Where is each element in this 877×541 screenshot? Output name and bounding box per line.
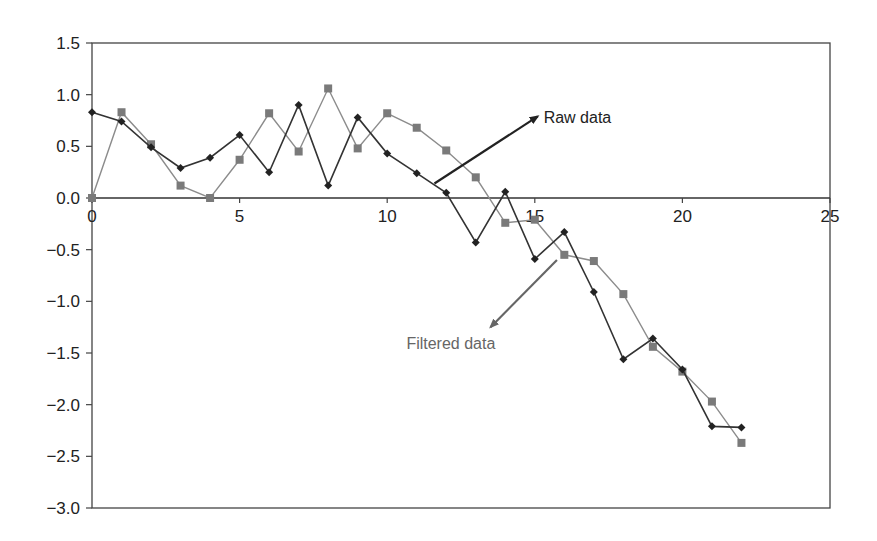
square-marker — [737, 439, 745, 447]
y-tick-label: −2.0 — [46, 396, 80, 415]
annotation-label-filtered-data: Filtered data — [406, 335, 495, 352]
square-marker — [118, 108, 126, 116]
diamond-marker — [590, 288, 598, 296]
square-marker — [324, 84, 332, 92]
annotation-arrow — [491, 260, 557, 327]
diamond-marker — [737, 423, 745, 431]
y-tick-label: 1.5 — [56, 34, 80, 53]
square-marker — [560, 251, 568, 259]
square-marker — [472, 173, 480, 181]
line-chart: 1.51.00.50.0−0.5−1.0−1.5−2.0−2.5−3.0 051… — [0, 0, 877, 541]
x-tick-label: 20 — [673, 207, 692, 226]
y-tick-label: 0.0 — [56, 189, 80, 208]
x-tick-label: 0 — [87, 207, 96, 226]
square-marker — [265, 109, 273, 117]
square-marker — [590, 257, 598, 265]
series-line — [92, 89, 741, 443]
square-marker — [413, 124, 421, 132]
y-tick-label: −3.0 — [46, 499, 80, 518]
series-group — [88, 84, 745, 446]
square-marker — [236, 156, 244, 164]
y-tick-label: −0.5 — [46, 241, 80, 260]
y-tick-label: 0.5 — [56, 137, 80, 156]
diamond-marker — [501, 188, 509, 196]
series-line — [92, 105, 741, 427]
square-marker — [649, 343, 657, 351]
square-marker — [383, 109, 391, 117]
diamond-marker — [88, 108, 96, 116]
square-marker — [295, 148, 303, 156]
x-tick-label: 25 — [821, 207, 840, 226]
annotations: Raw dataFiltered data — [406, 109, 611, 351]
y-tick-label: −1.0 — [46, 292, 80, 311]
square-marker — [206, 194, 214, 202]
square-marker — [177, 182, 185, 190]
diamond-marker — [324, 182, 332, 190]
annotation-label-raw-data: Raw data — [544, 109, 612, 126]
y-tick-label: −2.5 — [46, 447, 80, 466]
series-raw-data — [88, 101, 745, 431]
diamond-marker — [472, 238, 480, 246]
y-tick-label: 1.0 — [56, 86, 80, 105]
y-tick-label: −1.5 — [46, 344, 80, 363]
plot-border — [92, 43, 830, 508]
x-tick-label: 10 — [378, 207, 397, 226]
plot-frame — [92, 43, 830, 508]
square-marker — [619, 290, 627, 298]
diamond-marker — [295, 101, 303, 109]
square-marker — [354, 144, 362, 152]
diamond-marker — [708, 422, 716, 430]
square-marker — [531, 216, 539, 224]
square-marker — [501, 219, 509, 227]
y-axis: 1.51.00.50.0−0.5−1.0−1.5−2.0−2.5−3.0 — [46, 34, 92, 518]
square-marker — [708, 398, 716, 406]
x-tick-label: 5 — [235, 207, 244, 226]
series-filtered-data — [88, 84, 745, 446]
square-marker — [442, 146, 450, 154]
square-marker — [88, 194, 96, 202]
